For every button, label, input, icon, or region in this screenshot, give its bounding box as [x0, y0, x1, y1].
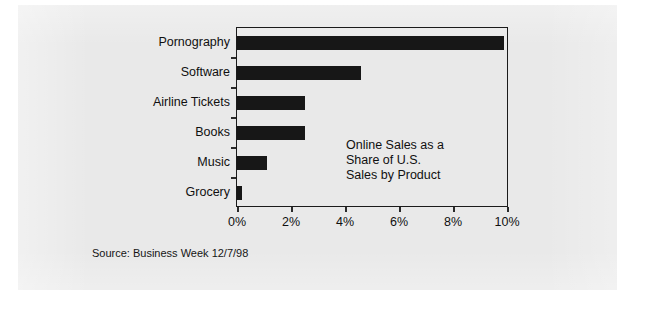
y-axis-tick: [231, 87, 236, 89]
y-axis-tick: [231, 147, 236, 149]
bar-pornography: [237, 36, 504, 50]
category-label-grocery: Grocery: [80, 185, 230, 199]
chart-annotation: Online Sales as aShare of U.S.Sales by P…: [346, 138, 444, 183]
bar-music: [237, 156, 267, 170]
x-axis-tick: [399, 207, 401, 212]
x-axis-tick-label: 4%: [315, 215, 375, 229]
x-axis-tick-label: 2%: [261, 215, 321, 229]
annotation-line: Online Sales as a: [346, 138, 444, 153]
category-label-pornography: Pornography: [80, 35, 230, 49]
x-axis-tick-label: 6%: [369, 215, 429, 229]
x-axis-tick: [507, 207, 509, 212]
bar-airline-tickets: [237, 96, 305, 110]
category-axis-labels: PornographySoftwareAirline TicketsBooksM…: [80, 27, 230, 207]
x-axis-tick: [453, 207, 455, 212]
x-axis-tick-label: 0%: [207, 215, 267, 229]
annotation-line: Sales by Product: [346, 168, 444, 183]
bar-books: [237, 126, 305, 140]
annotation-line: Share of U.S.: [346, 153, 444, 168]
bar-chart: PornographySoftwareAirline TicketsBooksM…: [0, 0, 648, 311]
x-axis-tick: [345, 207, 347, 212]
category-label-books: Books: [80, 125, 230, 139]
category-label-software: Software: [80, 65, 230, 79]
source-note: Source: Business Week 12/7/98: [92, 247, 248, 259]
category-label-music: Music: [80, 155, 230, 169]
y-axis-tick: [231, 57, 236, 59]
screenshot-root: PornographySoftwareAirline TicketsBooksM…: [0, 0, 648, 311]
x-axis-tick: [291, 207, 293, 212]
x-axis-tick-label: 8%: [423, 215, 483, 229]
bar-grocery: [237, 186, 242, 200]
bar-software: [237, 66, 361, 80]
x-axis-tick: [237, 207, 239, 212]
y-axis-tick: [231, 177, 236, 179]
x-axis-tick-label: 10%: [477, 215, 537, 229]
y-axis-tick: [231, 117, 236, 119]
category-label-airline-tickets: Airline Tickets: [80, 95, 230, 109]
